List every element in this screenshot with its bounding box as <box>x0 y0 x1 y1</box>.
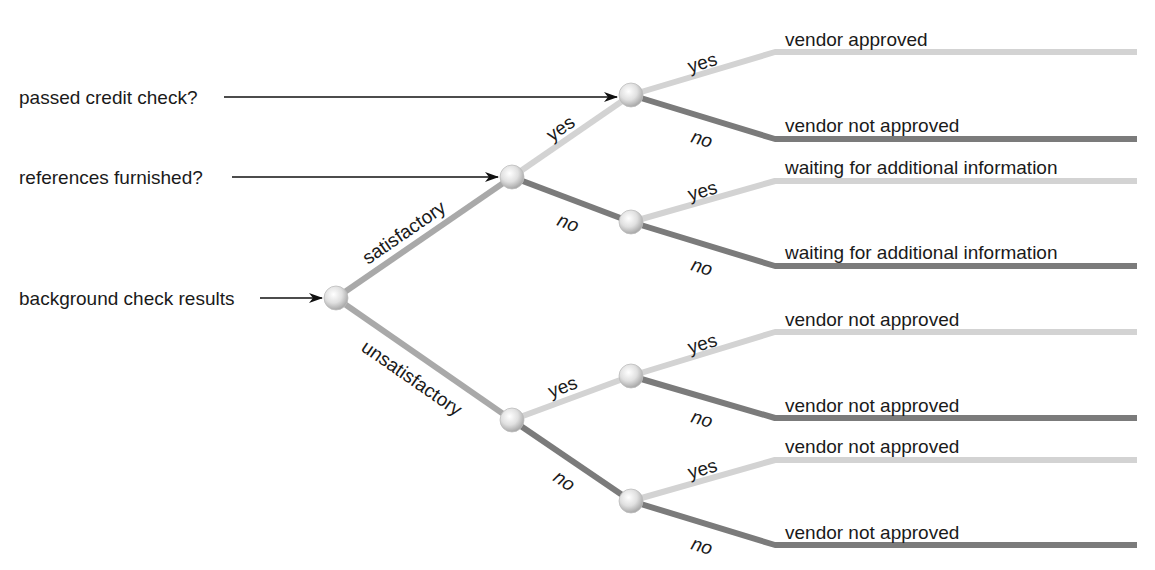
question-references: references furnished? <box>19 167 203 188</box>
branch-unsatisfactory <box>336 298 512 420</box>
node-unsat-yes <box>619 364 643 388</box>
outcome-3: waiting for additional information <box>784 157 1058 178</box>
branch-sat-yes <box>512 95 631 177</box>
node-references <box>500 165 524 189</box>
outcome-1: vendor approved <box>785 29 928 50</box>
question-credit-check: passed credit check? <box>19 87 198 108</box>
outcome-4: waiting for additional information <box>784 242 1058 263</box>
label-leaf-4-no: no <box>689 254 715 280</box>
node-background-check <box>324 286 348 310</box>
outcome-2: vendor not approved <box>785 115 959 136</box>
label-sat-yes: yes <box>542 111 578 145</box>
label-leaf-2-no: no <box>689 126 715 152</box>
branch-satisfactory <box>336 177 512 298</box>
label-leaf-8-no: no <box>689 533 715 559</box>
decision-tree: passed credit check? references furnishe… <box>0 0 1155 570</box>
label-leaf-6-no: no <box>689 406 715 432</box>
node-unsat-no <box>619 489 643 513</box>
node-unsatisfactory <box>500 408 524 432</box>
outcome-7: vendor not approved <box>785 436 959 457</box>
label-sat-no: no <box>555 209 582 236</box>
outcome-6: vendor not approved <box>785 395 959 416</box>
outcome-5: vendor not approved <box>785 309 959 330</box>
node-credit-check <box>619 83 643 107</box>
label-unsat-no: no <box>550 466 579 495</box>
outcome-8: vendor not approved <box>785 522 959 543</box>
question-background-check: background check results <box>19 288 234 309</box>
node-sat-no <box>619 210 643 234</box>
